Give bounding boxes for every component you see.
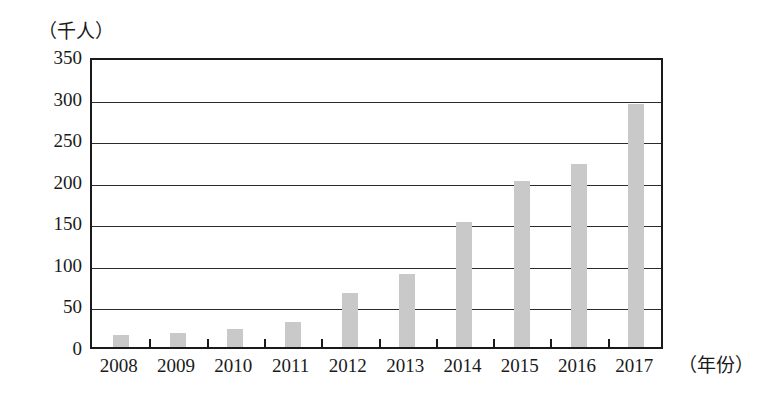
x-axis-tick-label: 2014: [432, 355, 492, 377]
x-axis-tick-mark: [436, 339, 438, 347]
x-axis-tick-label: 2009: [146, 355, 206, 377]
x-axis-tick-label: 2017: [604, 355, 664, 377]
x-axis-tick-label: 2013: [375, 355, 435, 377]
bar: [170, 333, 186, 347]
x-axis-tick-mark: [264, 339, 266, 347]
x-axis-tick-mark: [379, 339, 381, 347]
bar: [113, 335, 129, 347]
x-axis-tick-mark: [207, 339, 209, 347]
x-axis-tick-mark: [321, 339, 323, 347]
plot-area: [90, 58, 663, 349]
y-axis-tick-label: 350: [30, 48, 82, 67]
x-axis-tick-mark: [149, 339, 151, 347]
bar: [227, 329, 243, 347]
y-axis-tick-label: 250: [30, 131, 82, 150]
bar: [285, 322, 301, 347]
bar: [456, 222, 472, 347]
y-axis-tick-label: 150: [30, 214, 82, 233]
x-axis-tick-mark: [493, 339, 495, 347]
bar: [628, 104, 644, 347]
bar: [571, 164, 587, 347]
x-axis-tick-label: 2016: [547, 355, 607, 377]
y-axis-tick-label: 50: [30, 297, 82, 316]
x-axis-tick-label: 2011: [261, 355, 321, 377]
x-axis-tick-label: 2012: [318, 355, 378, 377]
x-axis-tick-mark: [608, 339, 610, 347]
x-axis-tick-label: 2015: [490, 355, 550, 377]
gridline: [92, 102, 661, 103]
y-axis-tick-label: 100: [30, 256, 82, 275]
y-axis-tick-label: 200: [30, 173, 82, 192]
y-axis-tick-label: 0: [30, 339, 82, 358]
gridline: [92, 143, 661, 144]
y-axis-tick-label: 300: [30, 90, 82, 109]
y-axis-tick-labels: 050100150200250300350: [28, 58, 82, 349]
bar: [342, 293, 358, 347]
x-axis-tick-labels: 2008200920102011201220132014201520162017: [90, 355, 663, 385]
bar: [514, 181, 530, 347]
x-axis-tick-label: 2008: [89, 355, 149, 377]
x-axis-tick-mark: [550, 339, 552, 347]
bar: [399, 274, 415, 347]
x-axis-caption: （年份）: [678, 355, 754, 377]
y-axis-unit-label: （千人）: [38, 16, 114, 43]
x-axis-tick-label: 2010: [203, 355, 263, 377]
bar-chart-figure: （千人） 050100150200250300350 2008200920102…: [0, 0, 771, 406]
